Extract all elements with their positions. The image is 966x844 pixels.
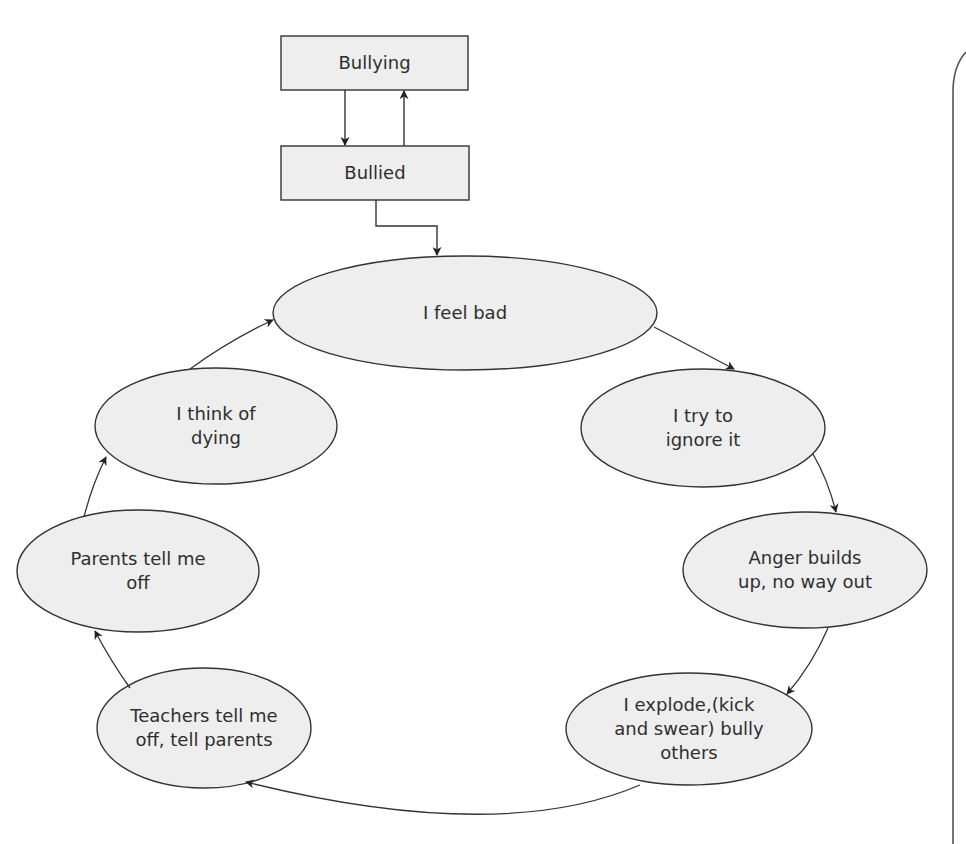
node-ignore (581, 369, 825, 487)
bullied-box (281, 146, 469, 200)
arrow-anger-to-explode (787, 628, 828, 694)
arrow-parents-to-dying (84, 457, 106, 517)
arrow-teachers-to-parents (95, 631, 130, 688)
arrow-ignore-to-anger (813, 454, 836, 512)
arrow-bullied-to-feel-bad (376, 200, 437, 255)
arrow-dying-to-feel-bad (190, 320, 273, 369)
node-parents (17, 510, 259, 632)
bullying-box (281, 36, 468, 90)
node-anger (683, 512, 927, 628)
node-explode (566, 673, 812, 785)
node-feel-bad (273, 256, 657, 370)
arrow-feel-bad-to-ignore (654, 327, 734, 369)
panel-frame-edge (953, 52, 966, 844)
node-dying (95, 368, 337, 484)
arrow-explode-to-teachers (246, 782, 640, 814)
bullying-cycle-diagram (0, 0, 966, 844)
